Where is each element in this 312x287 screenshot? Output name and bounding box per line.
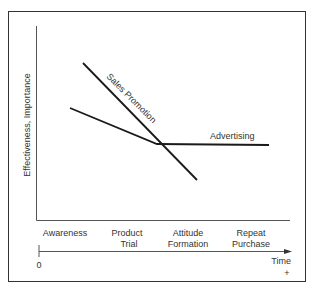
time-plus-marker: + [284, 268, 289, 278]
stage-product-trial-line1: Product [111, 228, 143, 238]
stage-attitude-formation-line2: Formation [168, 239, 209, 249]
time-axis-arrow-icon [284, 249, 292, 254]
sales-promotion-line [83, 63, 197, 180]
stage-awareness: Awareness [43, 228, 88, 238]
time-origin-label: 0 [36, 260, 41, 270]
sales-promotion-label: Sales Promotion [105, 71, 159, 125]
advertising-label: Advertising [210, 131, 255, 141]
chart-canvas: Effectiveness, Importance Sales Promotio… [0, 0, 312, 287]
stage-product-trial-line2: Trial [120, 239, 137, 249]
y-axis-label: Effectiveness, Importance [22, 73, 32, 176]
stage-repeat-purchase-line1: Repeat [236, 228, 266, 238]
stage-repeat-purchase-line2: Purchase [232, 239, 270, 249]
stage-attitude-formation-line1: Attitude [173, 228, 204, 238]
time-axis-label: Time [271, 256, 291, 266]
